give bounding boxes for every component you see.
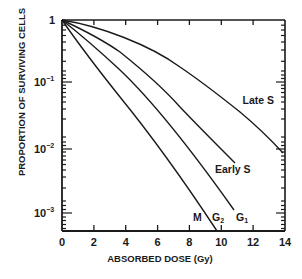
y-axis-title: PROPORTION OF SURVIVING CELLS [16,8,27,176]
y-tick-1: 1 [49,14,55,26]
label-g1: G1 [236,211,248,224]
label-late-s: Late S [242,94,274,106]
curve-late-s [62,20,283,153]
x-tick-14: 14 [279,236,292,248]
label-g2: G2 [212,211,224,224]
label-m: M [193,211,202,223]
survival-curve-chart: 1 10−1 10−2 10−3 0 2 4 6 8 10 12 14 ABSO… [0,0,302,279]
y-axis-ticks [62,25,285,228]
x-tick-4: 4 [123,236,130,248]
label-early-s: Early S [215,163,251,175]
x-tick-12: 12 [247,236,259,248]
plot-frame [62,20,285,231]
y-tick-1e-2: 10−2 [34,142,54,155]
y-tick-1e-3: 10−3 [34,206,54,219]
x-tick-labels: 0 2 4 6 8 10 12 14 [59,236,292,248]
x-tick-0: 0 [59,236,65,248]
x-tick-6: 6 [155,236,161,248]
x-axis-ticks [94,20,253,231]
survival-curves [62,20,283,231]
y-tick-1e-1: 10−1 [34,75,54,88]
x-tick-8: 8 [186,236,192,248]
x-tick-2: 2 [91,236,97,248]
curve-m-g2 [62,20,217,231]
x-axis-title: ABSORBED DOSE (Gy) [107,253,213,264]
x-tick-10: 10 [215,236,227,248]
y-tick-labels: 1 10−1 10−2 10−3 [34,14,55,219]
